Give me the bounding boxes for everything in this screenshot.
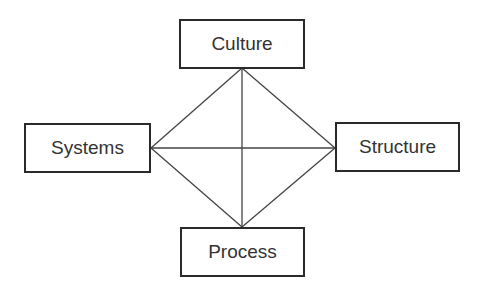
edge-culture-systems bbox=[151, 68, 242, 148]
node-culture: Culture bbox=[179, 19, 305, 69]
node-process: Process bbox=[180, 227, 305, 277]
node-process-label: Process bbox=[208, 241, 277, 263]
edge-systems-process bbox=[151, 148, 242, 227]
edge-culture-structure bbox=[242, 68, 335, 148]
node-systems-label: Systems bbox=[51, 137, 124, 159]
edge-structure-process bbox=[242, 148, 335, 227]
diamond-diagram: Culture Systems Structure Process bbox=[0, 0, 483, 294]
node-culture-label: Culture bbox=[211, 33, 272, 55]
node-structure-label: Structure bbox=[359, 136, 436, 158]
node-structure: Structure bbox=[335, 122, 460, 172]
node-systems: Systems bbox=[24, 123, 151, 173]
